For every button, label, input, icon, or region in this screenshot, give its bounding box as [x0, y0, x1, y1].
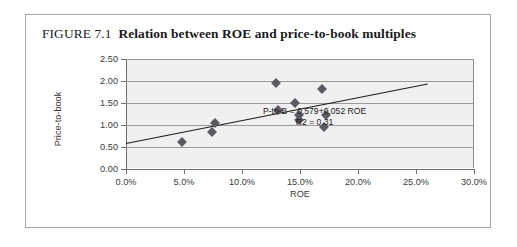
regression-annotation: P-to-B = 0.579+0.052 ROE R2 = 0.31 [263, 106, 366, 128]
y-axis-title: Price-to-book [53, 92, 63, 147]
figure-label: FIGURE 7.1 [42, 26, 111, 41]
figure-title: FIGURE 7.1Relation between ROE and price… [42, 26, 416, 42]
r-squared-value: R2 = 0.31 [263, 117, 366, 128]
x-axis-title: ROE [290, 189, 310, 199]
figure-container: FIGURE 7.1Relation between ROE and price… [25, 14, 491, 228]
regression-equation: P-to-B = 0.579+0.052 ROE [263, 106, 366, 117]
scatter-chart: 0.000.501.001.502.002.50 0.0%5.0%10.0%15… [52, 47, 482, 217]
figure-caption: Relation between ROE and price-to-book m… [118, 26, 416, 41]
trendline [52, 47, 482, 217]
